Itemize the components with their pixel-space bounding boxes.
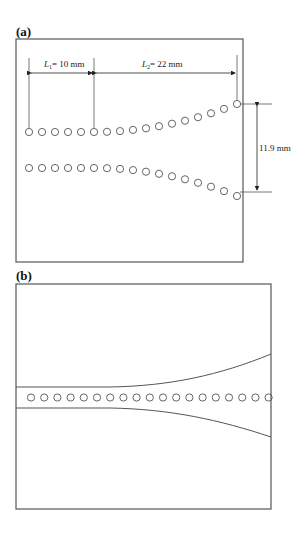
l2-label: L2= 22 mm bbox=[141, 59, 183, 70]
channel-lower-wall bbox=[16, 408, 271, 437]
panel-b-holes bbox=[27, 394, 272, 401]
panel-a-frame bbox=[16, 39, 243, 262]
panel-a-holes bbox=[25, 100, 240, 199]
width-label: 11.9 mm bbox=[259, 143, 291, 153]
diagram-canvas: L1= 10 mm L2= 22 mm 11.9 mm bbox=[0, 0, 293, 535]
channel-upper-wall bbox=[16, 354, 271, 387]
l1-label: L1= 10 mm bbox=[43, 59, 85, 70]
